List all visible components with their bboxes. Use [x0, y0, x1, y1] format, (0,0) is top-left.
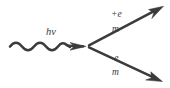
positron-mass-label: m	[112, 25, 119, 35]
electron-line	[89, 47, 154, 77]
positron-line	[89, 11, 155, 46]
electron-mass-label: m	[112, 68, 119, 78]
pair-production-diagram: hv +e m -e m	[0, 0, 170, 88]
photon-wavy-line	[10, 43, 70, 51]
electron-arrowhead	[146, 72, 163, 82]
electron-charge-label: -e	[111, 54, 118, 64]
positron-charge-label: +e	[111, 10, 122, 20]
photon-energy-label: hv	[46, 27, 56, 38]
diagram-canvas	[0, 0, 170, 88]
